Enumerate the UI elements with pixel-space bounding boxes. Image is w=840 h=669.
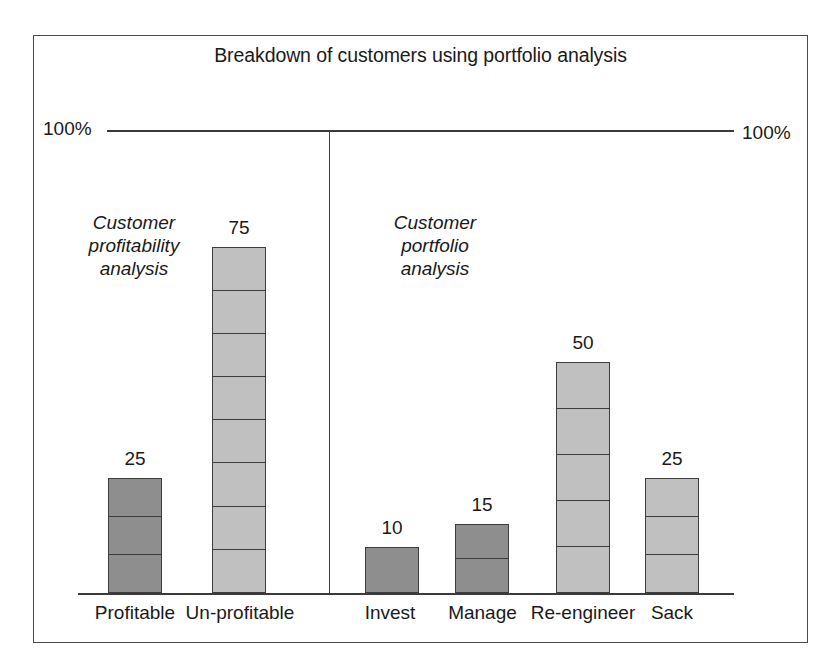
bar-segment bbox=[213, 507, 265, 550]
hundred-percent-label-left: 100% bbox=[43, 118, 92, 140]
bar-segment bbox=[557, 363, 609, 409]
bar-segment bbox=[646, 517, 698, 555]
bar-manage bbox=[455, 524, 509, 593]
bar-segment bbox=[213, 550, 265, 592]
bar-invest bbox=[365, 547, 419, 593]
bar-value-manage: 15 bbox=[425, 494, 539, 516]
bar-value-re-engineer: 50 bbox=[526, 332, 640, 354]
bar-sack bbox=[645, 478, 699, 594]
bar-segment bbox=[213, 334, 265, 377]
bar-profitable bbox=[108, 478, 162, 594]
bar-segment bbox=[109, 517, 161, 555]
bar-value-invest: 10 bbox=[335, 517, 449, 539]
bar-segment bbox=[109, 555, 161, 592]
bar-segment bbox=[557, 501, 609, 547]
bar-segment bbox=[557, 547, 609, 592]
panel-divider bbox=[329, 131, 330, 593]
bar-segment bbox=[213, 291, 265, 334]
hundred-percent-label-right: 100% bbox=[742, 122, 791, 144]
hundred-percent-reference-line bbox=[107, 130, 734, 132]
chart-figure: Breakdown of customers using portfolio a… bbox=[0, 0, 840, 669]
bar-segment bbox=[557, 455, 609, 501]
bar-value-sack: 25 bbox=[615, 448, 729, 470]
bar-label-sack: Sack bbox=[617, 602, 727, 624]
bar-re-engineer bbox=[556, 362, 610, 593]
bar-value-un-profitable: 75 bbox=[182, 217, 296, 239]
bar-segment bbox=[646, 479, 698, 517]
bar-segment bbox=[213, 248, 265, 291]
bar-segment bbox=[366, 548, 418, 592]
bar-segment bbox=[456, 559, 508, 592]
bar-segment bbox=[557, 409, 609, 455]
bar-segment bbox=[213, 377, 265, 420]
chart-title: Breakdown of customers using portfolio a… bbox=[33, 44, 808, 67]
bar-value-profitable: 25 bbox=[78, 448, 192, 470]
bar-segment bbox=[213, 420, 265, 463]
chart-baseline bbox=[78, 593, 734, 595]
bar-segment bbox=[213, 463, 265, 506]
bar-label-un-profitable: Un-profitable bbox=[150, 602, 330, 624]
bar-segment bbox=[456, 525, 508, 559]
bar-segment bbox=[646, 555, 698, 592]
bar-un-profitable bbox=[212, 247, 266, 594]
bar-segment bbox=[109, 479, 161, 517]
panel-caption-customer-portfolio-analysis: Customer portfolio analysis bbox=[355, 211, 515, 280]
